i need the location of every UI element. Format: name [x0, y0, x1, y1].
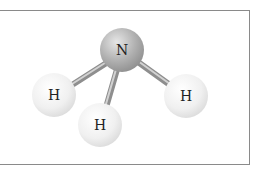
atom-label-h3: H	[180, 88, 192, 104]
atom-h3: H	[164, 74, 208, 118]
atom-label-h2: H	[94, 117, 106, 133]
atom-label-h1: H	[48, 87, 60, 103]
atom-h1: H	[32, 73, 76, 117]
atom-n: N	[100, 28, 144, 72]
atom-label-n: N	[116, 42, 128, 58]
atom-h2: H	[78, 103, 122, 147]
ammonia-molecule-diagram: H H H N	[0, 0, 263, 169]
